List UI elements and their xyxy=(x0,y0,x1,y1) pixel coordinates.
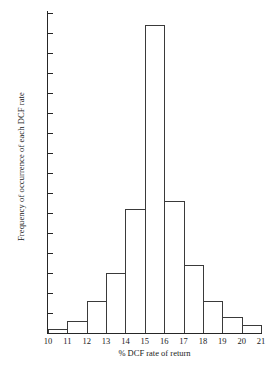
x-axis-line xyxy=(47,333,262,334)
x-axis-title: % DCF rate of return xyxy=(48,348,261,359)
histogram-bar xyxy=(67,321,87,333)
histogram-bar xyxy=(203,301,223,333)
histogram-bar xyxy=(145,25,165,333)
x-tick-label: 21 xyxy=(250,336,272,346)
y-axis-title: Frequency of occurrence of each DCF rate xyxy=(14,0,28,333)
y-tick-mark xyxy=(48,333,53,334)
histogram-figure: Frequency of occurrence of each DCF rate… xyxy=(0,0,275,368)
histogram-bar xyxy=(164,201,184,333)
histogram-bar xyxy=(48,329,68,333)
histogram-bar xyxy=(87,301,107,333)
histogram-bar xyxy=(222,317,242,333)
histogram-bar xyxy=(184,265,204,333)
plot-area xyxy=(48,13,261,333)
histogram-bar xyxy=(106,273,126,333)
histogram-bar xyxy=(125,209,145,333)
histogram-bar xyxy=(242,325,262,333)
